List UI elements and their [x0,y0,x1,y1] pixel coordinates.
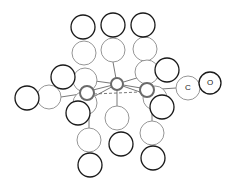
carbon-atom [140,121,164,145]
oxygen-atom [101,13,125,37]
oxygen-atom [141,146,165,170]
oxygen-atom [150,95,174,119]
carbon-atom [72,41,96,65]
carbon-atom [101,38,125,62]
oxygen-atom [15,86,39,110]
oxygen-atom [131,13,155,37]
oxygen-atom [66,101,90,125]
oxygen-atom [78,153,102,177]
carbon-atom [37,85,61,109]
molecule-diagram [0,0,236,187]
oxygen-atom [155,58,179,82]
metal-atom [140,83,154,97]
carbon-atom [133,37,157,61]
oxygen-atom [109,132,133,156]
carbon-atom [77,128,101,152]
metal-atom [80,86,94,100]
carbon-label: C [185,83,191,92]
metal-atom [111,78,123,90]
oxygen-atom [71,15,95,39]
carbon-atom [105,106,129,130]
oxygen-label: O [207,78,213,87]
oxygen-atom [51,65,75,89]
